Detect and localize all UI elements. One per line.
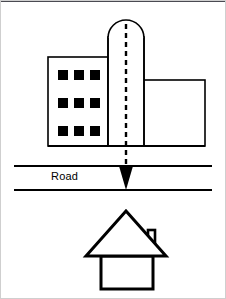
office-window <box>74 126 84 136</box>
diagram-canvas: Road <box>0 0 226 299</box>
house-body <box>101 256 153 289</box>
office-window <box>58 126 68 136</box>
office-window <box>90 126 100 136</box>
office-window <box>74 70 84 80</box>
office-window <box>90 70 100 80</box>
house <box>86 211 166 289</box>
office-window <box>74 98 84 108</box>
office-window <box>90 98 100 108</box>
office-window-grid <box>58 70 100 136</box>
office-window <box>58 70 68 80</box>
building-road-house-diagram <box>0 0 226 299</box>
office-window <box>58 98 68 108</box>
road-label: Road <box>51 171 78 182</box>
road <box>14 166 212 190</box>
flow-arrowhead <box>119 166 133 190</box>
